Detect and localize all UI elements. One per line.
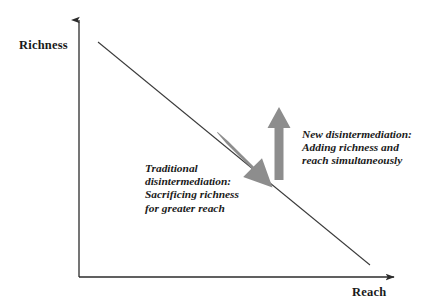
annotation-new-disintermediation: New disintermediation: Adding richness a… bbox=[302, 128, 412, 168]
annotation-line: for greater reach bbox=[145, 202, 239, 215]
annotation-line: disintermediation: bbox=[145, 175, 239, 188]
richness-reach-diagram: Richness Reach Traditional disintermedia… bbox=[0, 0, 447, 308]
annotation-line: reach simultaneously bbox=[302, 154, 412, 167]
annotation-line: Sacrificing richness bbox=[145, 188, 239, 201]
annotation-line: Traditional bbox=[145, 162, 239, 175]
annotation-line: New disintermediation: bbox=[302, 128, 412, 141]
annotation-traditional-disintermediation: Traditional disintermediation: Sacrifici… bbox=[145, 162, 239, 215]
annotation-line: Adding richness and bbox=[302, 141, 412, 154]
y-axis-label: Richness bbox=[19, 38, 68, 53]
new-disintermediation-arrow bbox=[268, 107, 291, 180]
x-axis-label: Reach bbox=[352, 285, 386, 300]
